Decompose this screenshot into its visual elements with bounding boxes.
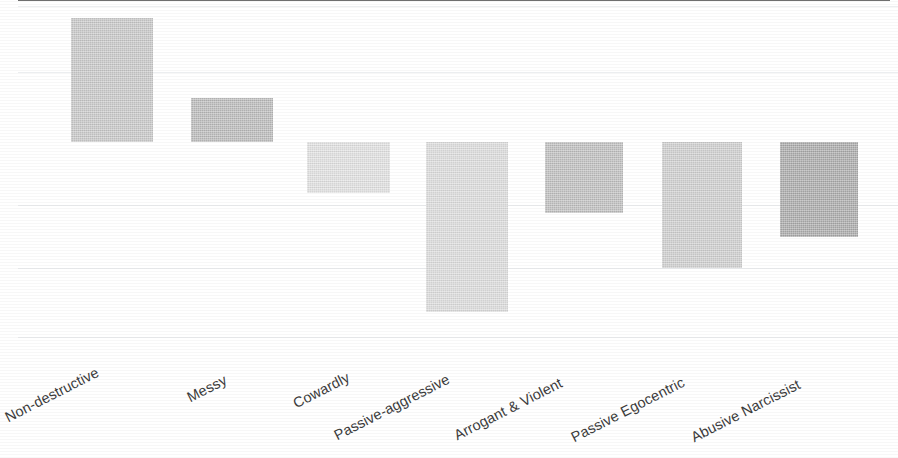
category-label-non-destructive: Non-destructive	[2, 364, 101, 425]
bar-messy[interactable]	[191, 98, 273, 142]
category-label-messy: Messy	[184, 372, 229, 406]
category-label-arrogant-violent: Arrogant & Violent	[451, 375, 564, 443]
bar-arrogant-violent[interactable]	[545, 142, 623, 213]
gridline	[18, 337, 898, 338]
plot-area	[0, 0, 898, 350]
category-label-passive-egocentric: Passive Egocentric	[568, 374, 687, 445]
zero-axis-line	[18, 0, 890, 1]
bar-cowardly[interactable]	[307, 142, 390, 193]
category-axis-labels: Non-destructiveMessyCowardlyPassive-aggr…	[0, 350, 898, 458]
bar-passive-egocentric[interactable]	[662, 142, 742, 268]
bar-abusive-narcissist[interactable]	[780, 142, 858, 237]
bar-non-destructive[interactable]	[71, 18, 153, 142]
bar-chart: Non-destructiveMessyCowardlyPassive-aggr…	[0, 0, 898, 458]
category-label-abusive-narcissist: Abusive Narcissist	[688, 376, 802, 445]
bar-passive-aggressive[interactable]	[426, 142, 508, 312]
category-label-cowardly: Cowardly	[290, 369, 352, 411]
gridline	[18, 6, 898, 7]
